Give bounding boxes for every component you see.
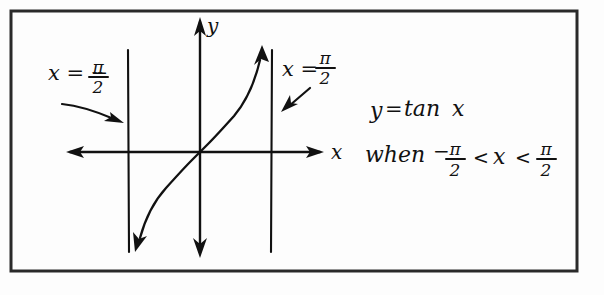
domain-variable: x	[493, 144, 506, 169]
x-axis-label: x	[331, 140, 342, 164]
left-asymptote-line	[128, 50, 129, 252]
equation-variable: x	[452, 96, 465, 121]
right-asymptote-label-denominator: 2	[319, 68, 331, 88]
domain-less-than-first: <	[473, 146, 489, 168]
domain-right-denominator: 2	[540, 160, 552, 180]
left-annotation-arrowhead	[104, 112, 124, 123]
y-axis-label: y	[206, 14, 219, 38]
left-annotation-arrow-shaft	[62, 104, 114, 119]
equation-y-symbol: y	[369, 98, 383, 123]
domain-left-numerator: π	[448, 139, 461, 159]
handwritten-graph-figure: x = − π 2 x = π 2 y x y = tan x when − π…	[0, 0, 604, 295]
equation-function-name: tan	[404, 96, 440, 121]
border-frame	[11, 11, 577, 271]
domain-right-numerator: π	[539, 139, 552, 159]
equation-equals-sign: =	[385, 97, 403, 121]
curve-upper-arrowhead	[254, 45, 269, 65]
sketch-canvas: x = − π 2 x = π 2 y x y = tan x when − π…	[0, 0, 604, 295]
left-asymptote-label-denominator: 2	[92, 77, 104, 97]
right-asymptote-label-prefix: x =	[282, 57, 318, 81]
domain-left-denominator: 2	[449, 160, 461, 180]
right-asymptote-label-numerator: π	[318, 48, 331, 68]
left-asymptote-label-numerator: π	[91, 57, 104, 77]
domain-less-than-second: <	[515, 146, 531, 168]
right-asymptote-line	[271, 50, 272, 252]
right-annotation-arrowhead	[281, 95, 298, 112]
domain-when-word: when	[365, 142, 425, 167]
